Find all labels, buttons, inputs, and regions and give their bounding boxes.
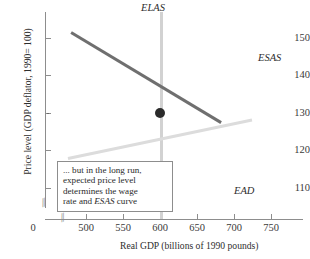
y-tick-140 bbox=[46, 75, 51, 76]
y-tick-120 bbox=[46, 150, 51, 151]
note-line-2: expected price level bbox=[63, 175, 167, 185]
x-tick-750 bbox=[271, 214, 272, 219]
chart-canvas: // // 150 140 130 120 110 0 500 550 600 … bbox=[0, 0, 310, 259]
x-tick-label-700: 700 bbox=[214, 222, 254, 233]
x-tick-700 bbox=[234, 214, 235, 219]
note-line-1: ... but in the long run, bbox=[63, 165, 167, 175]
x-tick-label-600: 600 bbox=[140, 222, 180, 233]
x-tick-label-650: 650 bbox=[177, 222, 217, 233]
elas-curve-label: ELAS bbox=[141, 2, 165, 13]
ead-curve-label: EAD bbox=[234, 185, 254, 196]
y-tick-110 bbox=[46, 188, 51, 189]
x-axis-break-icon: // bbox=[58, 211, 65, 224]
x-tick-500 bbox=[86, 214, 87, 219]
x-axis-line bbox=[45, 219, 303, 220]
note-line-4-pre: rate and bbox=[63, 196, 94, 206]
esas-curve-label: ESAS bbox=[258, 52, 281, 63]
y-tick-label-150: 150 bbox=[270, 32, 310, 43]
x-tick-label-550: 550 bbox=[103, 222, 143, 233]
long-run-annotation-box: ... but in the long run, expected price … bbox=[57, 161, 173, 212]
x-tick-label-750: 750 bbox=[251, 222, 291, 233]
x-tick-650 bbox=[197, 214, 198, 219]
note-line-4-italic: ESAS bbox=[94, 196, 114, 206]
equilibrium-point bbox=[155, 108, 165, 118]
x-tick-label-0: 0 bbox=[13, 222, 53, 233]
y-axis-line bbox=[45, 12, 46, 208]
x-tick-550 bbox=[123, 214, 124, 219]
y-tick-label-110: 110 bbox=[270, 182, 310, 193]
x-axis-title: Real GDP (billions of 1990 pounds) bbox=[120, 240, 258, 251]
y-tick-label-140: 140 bbox=[270, 69, 310, 80]
y-axis-title: Price level (GDP deflator, 1990= 100) bbox=[22, 17, 33, 187]
y-tick-150 bbox=[46, 38, 51, 39]
note-line-3: determines the wage bbox=[63, 186, 167, 196]
x-tick-label-500: 500 bbox=[66, 222, 106, 233]
equilibrium-leader-line bbox=[47, 113, 159, 114]
note-line-4-post: curve bbox=[115, 196, 137, 206]
note-line-4: rate and ESAS curve bbox=[63, 196, 167, 206]
y-tick-label-130: 130 bbox=[270, 107, 310, 118]
y-tick-label-120: 120 bbox=[270, 144, 310, 155]
ead-curve bbox=[70, 31, 222, 124]
